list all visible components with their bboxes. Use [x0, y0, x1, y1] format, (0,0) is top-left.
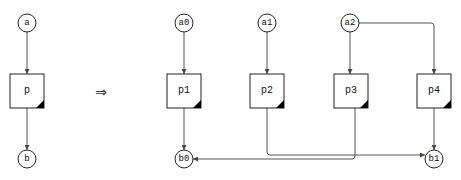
process-node-p-label: p	[24, 85, 30, 96]
process-node-p4-label: p4	[428, 85, 440, 96]
input-node-a2-label: a2	[345, 18, 356, 28]
output-node-b1-label: b1	[429, 154, 440, 164]
edge-a2-to-p4	[359, 23, 434, 74]
process-node-p2-label: p2	[261, 85, 273, 96]
right-graph: a0 a1 a2 p1 p2 p3 p4	[167, 14, 451, 168]
input-node-a0[interactable]: a0	[175, 14, 193, 32]
implies-arrow-icon: ⇒	[95, 84, 107, 100]
output-node-b0[interactable]: b0	[175, 150, 193, 168]
input-node-a[interactable]: a	[18, 14, 36, 32]
input-node-a1[interactable]: a1	[258, 14, 276, 32]
output-node-b0-label: b0	[179, 154, 190, 164]
output-node-b-label: b	[24, 154, 29, 164]
process-node-p[interactable]: p	[10, 74, 44, 108]
edge-p3-to-b0	[193, 108, 355, 159]
edge-p2-to-b1	[267, 108, 425, 155]
left-graph: a p b	[10, 14, 44, 168]
input-node-a-label: a	[24, 18, 30, 28]
process-node-p4[interactable]: p4	[417, 74, 451, 108]
dataflow-diagram: a p b ⇒ a0 a1	[0, 0, 461, 180]
process-node-p3[interactable]: p3	[334, 74, 368, 108]
process-node-p1-label: p1	[178, 85, 190, 96]
output-node-b1[interactable]: b1	[425, 150, 443, 168]
output-node-b[interactable]: b	[18, 150, 36, 168]
input-node-a0-label: a0	[179, 18, 190, 28]
input-node-a1-label: a1	[262, 18, 273, 28]
process-node-p2[interactable]: p2	[250, 74, 284, 108]
input-node-a2[interactable]: a2	[341, 14, 359, 32]
process-node-p3-label: p3	[345, 85, 357, 96]
process-node-p1[interactable]: p1	[167, 74, 201, 108]
